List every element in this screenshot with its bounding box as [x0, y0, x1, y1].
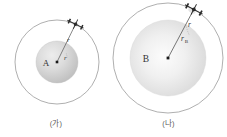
satellite-icon: [182, 0, 205, 19]
planet-a-center-dot: [56, 61, 59, 64]
orbit-radius-label-b: r: [188, 20, 191, 29]
planet-radius-label-a: r: [64, 54, 67, 62]
planet-b-center-dot: [167, 57, 170, 60]
panel-a-group: A r r: [15, 16, 99, 104]
orbit-radius-label-a: r: [67, 36, 70, 44]
planet-b-label: B: [143, 54, 149, 64]
planet-a-label: A: [43, 58, 50, 68]
panel-b-group: B r B r: [113, 0, 223, 113]
caption-panel-a: (가): [0, 117, 112, 128]
planet-radius-label-b: r: [181, 34, 184, 43]
caption-panel-b: (나): [112, 117, 225, 128]
satellite-icon: [65, 16, 86, 33]
